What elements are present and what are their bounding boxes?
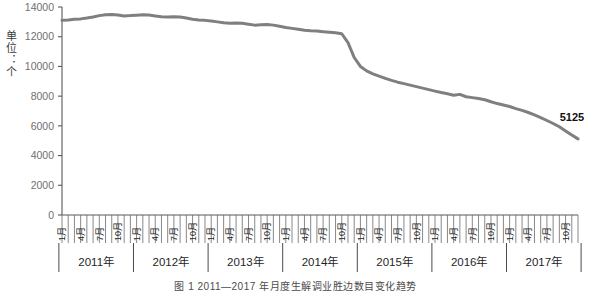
figure-caption: 图 1 2011—2017 年月度生解调业胜边数目变化趋势 xyxy=(0,278,591,293)
x-axis-month-label: 4月 xyxy=(449,227,459,241)
y-axis-tick-label: 14000 xyxy=(25,1,54,13)
y-axis-tick-label: 2000 xyxy=(31,179,55,191)
x-axis-month-label: 4月 xyxy=(150,227,160,241)
y-axis-tick-label: 12000 xyxy=(25,30,54,42)
x-axis-year-label: 2012年 xyxy=(152,255,189,268)
x-axis-month-label: 7月 xyxy=(468,227,478,241)
x-axis-month-label: 1月 xyxy=(57,227,67,241)
y-axis-tick-label: 6000 xyxy=(31,120,55,132)
y-axis-tick-label: 10000 xyxy=(25,60,54,72)
x-axis-month-label: 1月 xyxy=(281,227,291,241)
data-point-value-label: 5125 xyxy=(560,111,584,123)
x-axis-month-label: 10月 xyxy=(337,222,347,241)
x-axis-month-label: 7月 xyxy=(169,227,179,241)
x-axis-year-label: 2015年 xyxy=(376,255,413,268)
x-axis-year-label: 2017年 xyxy=(526,255,563,268)
x-axis-month-label: 4月 xyxy=(300,227,310,241)
x-axis-year-label: 2014年 xyxy=(302,255,339,268)
y-axis-tick-label: 8000 xyxy=(31,90,55,102)
x-axis-month-label: 4月 xyxy=(374,227,384,241)
x-axis-year-label: 2016年 xyxy=(451,255,488,268)
x-axis-month-label: 1月 xyxy=(356,227,366,241)
x-axis-month-label: 10月 xyxy=(561,222,571,241)
x-axis-month-label: 7月 xyxy=(244,227,254,241)
x-axis-month-label: 1月 xyxy=(430,227,440,241)
x-axis-month-label: 4月 xyxy=(225,227,235,241)
x-axis-month-label: 10月 xyxy=(486,222,496,241)
x-axis-month-label: 7月 xyxy=(393,227,403,241)
x-axis-month-label: 7月 xyxy=(318,227,328,241)
x-axis-month-label: 4月 xyxy=(76,227,86,241)
x-axis-month-label: 1月 xyxy=(206,227,216,241)
x-axis-month-label: 1月 xyxy=(132,227,142,241)
x-axis-month-label: 10月 xyxy=(412,222,422,241)
x-axis-month-label: 1月 xyxy=(505,227,515,241)
x-axis-month-label: 7月 xyxy=(542,227,552,241)
x-axis-year-label: 2013年 xyxy=(227,255,264,268)
x-axis-month-label: 10月 xyxy=(188,222,198,241)
x-axis-month-label: 4月 xyxy=(523,227,533,241)
x-axis-month-label: 10月 xyxy=(113,222,123,241)
x-axis-year-label: 2011年 xyxy=(78,255,114,268)
y-axis-tick-label: 0 xyxy=(48,209,54,221)
x-axis-month-label: 7月 xyxy=(95,227,105,241)
y-axis-tick-label: 4000 xyxy=(31,149,55,161)
x-axis-month-label: 10月 xyxy=(262,222,272,241)
data-series-line xyxy=(62,14,578,138)
